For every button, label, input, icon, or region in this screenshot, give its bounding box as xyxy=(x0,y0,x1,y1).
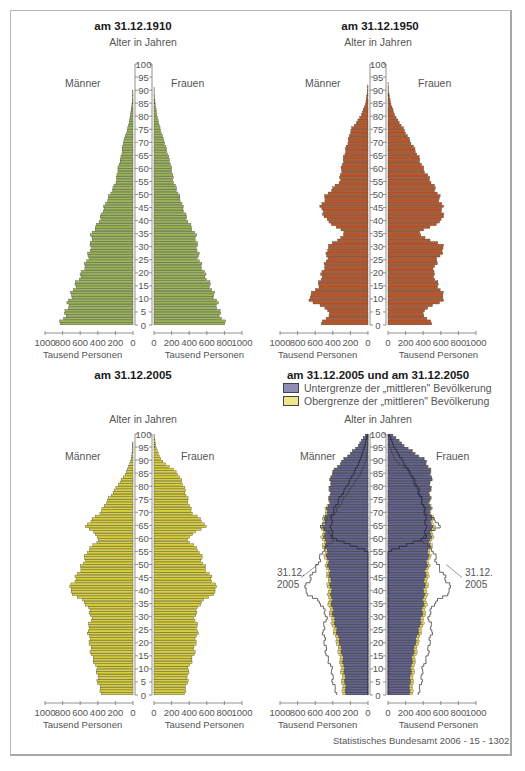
svg-text:0: 0 xyxy=(375,320,380,331)
svg-text:75: 75 xyxy=(373,124,384,135)
svg-text:60: 60 xyxy=(373,533,384,544)
svg-text:85: 85 xyxy=(138,98,149,109)
svg-text:20: 20 xyxy=(138,267,149,278)
svg-text:85: 85 xyxy=(138,468,149,479)
svg-text:800: 800 xyxy=(55,707,71,718)
svg-text:55: 55 xyxy=(373,176,384,187)
svg-text:100: 100 xyxy=(136,59,152,70)
svg-text:30: 30 xyxy=(373,241,384,252)
svg-text:10: 10 xyxy=(373,663,384,674)
svg-text:90: 90 xyxy=(138,85,149,96)
svg-text:800: 800 xyxy=(450,707,466,718)
svg-text:75: 75 xyxy=(138,124,149,135)
svg-text:800: 800 xyxy=(290,337,306,348)
svg-text:40: 40 xyxy=(138,585,149,596)
svg-text:30: 30 xyxy=(373,611,384,622)
svg-text:50: 50 xyxy=(373,559,384,570)
svg-text:0: 0 xyxy=(375,690,380,701)
svg-text:90: 90 xyxy=(373,455,384,466)
svg-text:200: 200 xyxy=(398,707,414,718)
svg-text:90: 90 xyxy=(373,85,384,96)
svg-text:50: 50 xyxy=(138,559,149,570)
svg-text:15: 15 xyxy=(373,650,384,661)
svg-text:Tausend Personen: Tausend Personen xyxy=(399,719,478,730)
svg-text:400: 400 xyxy=(90,707,106,718)
svg-text:600: 600 xyxy=(307,337,323,348)
svg-text:35: 35 xyxy=(138,228,149,239)
svg-text:400: 400 xyxy=(181,337,197,348)
svg-text:600: 600 xyxy=(199,337,215,348)
svg-text:1000: 1000 xyxy=(465,337,486,348)
svg-text:0: 0 xyxy=(151,337,156,348)
svg-text:400: 400 xyxy=(325,337,341,348)
svg-text:60: 60 xyxy=(138,163,149,174)
svg-text:600: 600 xyxy=(433,707,449,718)
svg-text:85: 85 xyxy=(373,98,384,109)
svg-text:0: 0 xyxy=(365,337,370,348)
svg-text:55: 55 xyxy=(138,176,149,187)
svg-text:100: 100 xyxy=(370,429,386,440)
svg-text:400: 400 xyxy=(325,707,341,718)
svg-text:80: 80 xyxy=(373,481,384,492)
svg-text:100: 100 xyxy=(370,59,386,70)
svg-text:40: 40 xyxy=(373,585,384,596)
svg-text:35: 35 xyxy=(138,598,149,609)
svg-text:45: 45 xyxy=(138,202,149,213)
svg-text:95: 95 xyxy=(138,442,149,453)
svg-text:45: 45 xyxy=(373,202,384,213)
svg-text:90: 90 xyxy=(138,455,149,466)
svg-text:Tausend Personen: Tausend Personen xyxy=(165,349,244,360)
svg-text:200: 200 xyxy=(107,337,123,348)
svg-text:20: 20 xyxy=(138,637,149,648)
svg-text:50: 50 xyxy=(138,189,149,200)
svg-text:70: 70 xyxy=(373,137,384,148)
pyramid-1: 0510152025303540455055606570758085909510… xyxy=(269,59,486,361)
svg-text:Tausend Personen: Tausend Personen xyxy=(43,349,122,360)
svg-text:95: 95 xyxy=(138,72,149,83)
svg-text:5: 5 xyxy=(141,306,146,317)
svg-text:200: 200 xyxy=(107,707,123,718)
svg-text:35: 35 xyxy=(373,598,384,609)
svg-text:45: 45 xyxy=(373,572,384,583)
svg-text:80: 80 xyxy=(138,111,149,122)
svg-text:400: 400 xyxy=(90,337,106,348)
svg-text:25: 25 xyxy=(138,254,149,265)
svg-text:200: 200 xyxy=(398,337,414,348)
svg-text:600: 600 xyxy=(72,337,88,348)
svg-text:10: 10 xyxy=(138,663,149,674)
svg-text:75: 75 xyxy=(373,494,384,505)
svg-text:0: 0 xyxy=(151,707,156,718)
svg-text:5: 5 xyxy=(375,676,380,687)
svg-text:30: 30 xyxy=(138,241,149,252)
svg-text:1000: 1000 xyxy=(34,707,55,718)
svg-text:Tausend Personen: Tausend Personen xyxy=(278,719,357,730)
svg-text:400: 400 xyxy=(415,707,431,718)
svg-text:65: 65 xyxy=(373,520,384,531)
svg-text:95: 95 xyxy=(373,72,384,83)
svg-text:35: 35 xyxy=(373,228,384,239)
svg-text:Tausend Personen: Tausend Personen xyxy=(43,719,122,730)
svg-text:55: 55 xyxy=(138,546,149,557)
svg-text:60: 60 xyxy=(138,533,149,544)
svg-text:85: 85 xyxy=(373,468,384,479)
svg-text:45: 45 xyxy=(138,572,149,583)
svg-text:0: 0 xyxy=(130,707,135,718)
svg-text:800: 800 xyxy=(55,337,71,348)
svg-text:1000: 1000 xyxy=(269,337,290,348)
svg-text:20: 20 xyxy=(373,267,384,278)
svg-text:40: 40 xyxy=(138,215,149,226)
svg-text:1000: 1000 xyxy=(465,707,486,718)
svg-text:80: 80 xyxy=(138,481,149,492)
svg-text:25: 25 xyxy=(138,624,149,635)
svg-text:65: 65 xyxy=(138,520,149,531)
svg-text:95: 95 xyxy=(373,442,384,453)
svg-text:30: 30 xyxy=(138,611,149,622)
svg-text:0: 0 xyxy=(385,337,390,348)
svg-text:600: 600 xyxy=(72,707,88,718)
svg-text:0: 0 xyxy=(141,320,146,331)
svg-text:15: 15 xyxy=(138,280,149,291)
svg-text:600: 600 xyxy=(433,337,449,348)
svg-text:20: 20 xyxy=(373,637,384,648)
svg-text:5: 5 xyxy=(141,676,146,687)
svg-text:10: 10 xyxy=(373,293,384,304)
